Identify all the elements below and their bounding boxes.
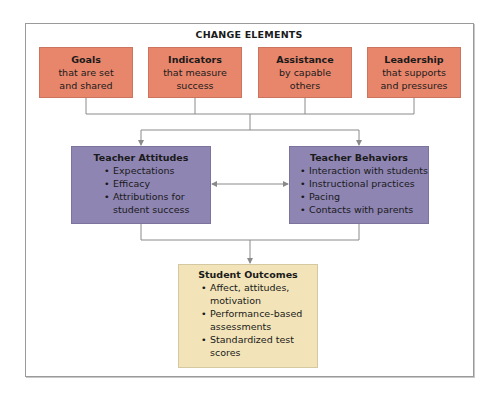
- list-item: Efficacy: [104, 177, 204, 190]
- change-element-indicators: Indicators that measure success: [148, 47, 242, 98]
- assistance-line2: others: [259, 79, 351, 92]
- indicators-heading: Indicators: [149, 53, 241, 66]
- student-outcomes-box: Student Outcomes Affect, attitudes, moti…: [178, 264, 318, 368]
- list-item: Attributions for student success: [104, 190, 204, 216]
- change-element-goals: Goals that are set and shared: [39, 47, 133, 98]
- list-item: Contacts with parents: [300, 203, 430, 216]
- goals-line2: and shared: [40, 79, 132, 92]
- list-item: Standardized test scores: [201, 333, 311, 359]
- assistance-line1: by capable: [259, 66, 351, 79]
- list-item: Interaction with students: [300, 164, 430, 177]
- list-item: Expectations: [104, 164, 204, 177]
- leadership-line1: that supports: [368, 66, 460, 79]
- teacher-behaviors-box: Teacher Behaviors Interaction with stude…: [289, 146, 429, 224]
- change-element-assistance: Assistance by capable others: [258, 47, 352, 98]
- list-item: Pacing: [300, 190, 430, 203]
- leadership-heading: Leadership: [368, 53, 460, 66]
- teacher-attitudes-box: Teacher Attitudes Expectations Efficacy …: [71, 146, 211, 224]
- goals-heading: Goals: [40, 53, 132, 66]
- student-outcomes-heading: Student Outcomes: [179, 268, 317, 281]
- teacher-behaviors-list: Interaction with students Instructional …: [300, 164, 430, 216]
- list-item: Instructional practices: [300, 177, 430, 190]
- indicators-line1: that measure: [149, 66, 241, 79]
- list-item: Affect, attitudes, motivation: [201, 281, 311, 307]
- goals-line1: that are set: [40, 66, 132, 79]
- list-item: Performance-based assessments: [201, 307, 311, 333]
- indicators-line2: success: [149, 79, 241, 92]
- student-outcomes-list: Affect, attitudes, motivation Performanc…: [201, 281, 311, 359]
- leadership-line2: and pressures: [368, 79, 460, 92]
- teacher-attitudes-list: Expectations Efficacy Attributions for s…: [104, 164, 204, 216]
- teacher-attitudes-heading: Teacher Attitudes: [72, 151, 210, 164]
- teacher-behaviors-heading: Teacher Behaviors: [290, 151, 428, 164]
- change-element-leadership: Leadership that supports and pressures: [367, 47, 461, 98]
- assistance-heading: Assistance: [259, 53, 351, 66]
